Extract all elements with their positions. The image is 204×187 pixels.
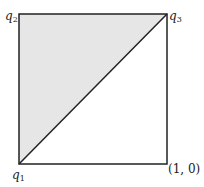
q1-subscript: 1: [20, 174, 25, 183]
corner-coordinate: (1, 0): [168, 162, 200, 176]
q3-name: q: [169, 9, 177, 23]
q2-subscript: 2: [13, 15, 18, 24]
q2-name: q: [5, 9, 13, 23]
vertex-label-q3: q3: [169, 10, 182, 24]
q1-name: q: [12, 168, 20, 182]
corner-label-1-0: (1, 0): [168, 163, 200, 175]
vertex-label-q1: q1: [12, 169, 25, 183]
diagram-canvas: [0, 0, 204, 187]
q3-subscript: 3: [177, 15, 182, 24]
vertex-label-q2: q2: [5, 10, 18, 24]
